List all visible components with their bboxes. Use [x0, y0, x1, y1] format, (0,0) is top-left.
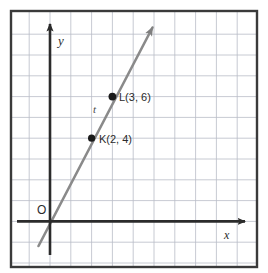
point-L-marker [109, 93, 117, 101]
y-axis-label: y [56, 33, 64, 48]
point-L-label: L(3, 6) [119, 91, 151, 103]
graph-figure: y x O t L(3, 6) K(2, 4) [0, 0, 268, 273]
x-axis-label: x [223, 228, 230, 242]
origin-label: O [37, 203, 46, 217]
coordinate-plane-svg: y x O t L(3, 6) K(2, 4) [0, 0, 268, 273]
point-K-label: K(2, 4) [99, 133, 132, 145]
point-K-marker [88, 135, 95, 142]
